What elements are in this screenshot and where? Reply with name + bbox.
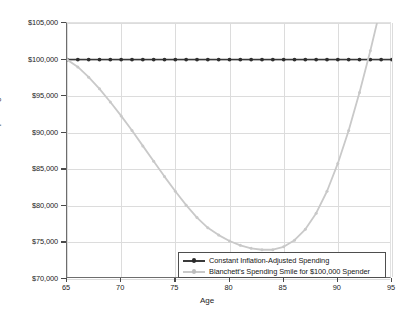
data-point [206,226,209,229]
data-point [185,204,188,207]
data-point [390,58,394,62]
data-point [228,239,231,242]
chart-legend: Constant Inflation-Adjusted Spending Bla… [178,252,386,278]
x-tick-label: 90 [333,283,341,292]
y-tick-mark [61,132,66,133]
legend-line-marker-icon [183,267,205,277]
x-tick-label: 85 [279,283,287,292]
y-tick-label: $75,000 [32,237,58,246]
y-tick-label: $90,000 [32,127,58,136]
data-point [380,4,383,7]
x-tick-mark [337,278,338,282]
data-point [293,239,296,242]
data-point [98,87,101,90]
x-tick-mark [391,278,392,282]
data-point [282,245,285,248]
series-layer [67,23,392,279]
y-tick-mark [61,95,66,96]
y-tick-mark [61,59,66,60]
x-tick-label: 75 [170,283,178,292]
data-point [119,58,123,62]
data-point [260,58,264,62]
legend-item-spending-smile: Blanchett's Spending Smile for $100,000 … [183,266,381,277]
data-point [326,190,329,193]
data-point [303,58,307,62]
data-point [336,58,340,62]
data-point [271,248,274,251]
legend-line-marker-icon [183,256,205,266]
data-point [358,91,361,94]
data-point [108,58,112,62]
data-point [152,58,156,62]
legend-item-constant-spending: Constant Inflation-Adjusted Spending [183,255,381,266]
data-point [347,58,351,62]
x-tick-mark [174,278,175,282]
data-point [325,58,329,62]
y-tick-label: $95,000 [32,91,58,100]
data-point [141,144,144,147]
y-tick-label: $105,000 [28,18,58,27]
data-point [163,175,166,178]
data-point [358,58,362,62]
data-point [131,129,134,132]
y-axis-title: Real Spending [0,98,1,150]
x-tick-label: 80 [224,283,232,292]
data-point [174,190,177,193]
data-point [141,58,145,62]
x-tick-label: 65 [62,283,70,292]
data-point [109,100,112,103]
x-tick-mark [120,278,121,282]
data-point [239,244,242,247]
data-point [76,58,80,62]
x-tick-mark [66,278,67,282]
data-point [347,129,350,132]
plot-area [66,22,391,278]
y-tick-label: $70,000 [32,274,58,283]
data-point [369,49,372,52]
data-point [130,58,134,62]
spending-smile-chart: $70,000$75,000$80,000$85,000$90,000$95,0… [0,0,414,321]
y-tick-label: $100,000 [28,54,58,63]
data-point [76,65,79,68]
y-tick-mark [61,205,66,206]
x-tick-mark [229,278,230,282]
legend-label-spending-smile: Blanchett's Spending Smile for $100,000 … [205,267,370,276]
x-tick-mark [283,278,284,282]
data-point [196,216,199,219]
data-point [87,58,91,62]
data-point [250,247,253,250]
x-axis-title: Age [0,296,414,305]
data-point [152,160,155,163]
data-point [314,58,318,62]
x-tick-label: 95 [387,283,395,292]
x-tick-label: 70 [116,283,124,292]
gridline-vertical [392,23,393,277]
data-point [315,212,318,215]
legend-label-constant-spending: Constant Inflation-Adjusted Spending [205,256,329,265]
data-point [261,248,264,251]
data-point [238,58,242,62]
data-point [195,58,199,62]
data-point [228,58,232,62]
data-point [184,58,188,62]
data-point [271,58,275,62]
series-line-2 [67,0,392,250]
data-point [293,58,297,62]
data-point [217,234,220,237]
y-tick-mark [61,168,66,169]
data-point [173,58,177,62]
y-tick-mark [61,22,66,23]
y-tick-label: $85,000 [32,164,58,173]
data-point [282,58,286,62]
data-point [249,58,253,62]
data-point [98,58,102,62]
data-point [336,162,339,165]
y-tick-mark [61,241,66,242]
data-point [120,114,123,117]
data-point [87,76,90,79]
data-point [217,58,221,62]
data-point [304,228,307,231]
data-point [206,58,210,62]
y-tick-label: $80,000 [32,200,58,209]
data-point [163,58,167,62]
